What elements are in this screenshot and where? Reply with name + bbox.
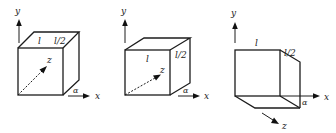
y-axis-label: y xyxy=(230,8,237,18)
cube-2 xyxy=(125,38,190,95)
diagram-canvas: y z l l/2 α x y xyxy=(0,0,336,133)
front-face xyxy=(18,48,63,95)
angle-alpha-label: α xyxy=(302,98,308,107)
length-label: l xyxy=(255,38,258,48)
y-axis-label: y xyxy=(14,6,21,16)
angle-alpha-label: α xyxy=(183,86,189,95)
z-axis-label: z xyxy=(159,65,165,75)
panel-1: y z l l/2 α x xyxy=(14,6,100,101)
y-axis-label: y xyxy=(120,6,127,16)
panel-2: y z l l/2 α x xyxy=(120,6,209,101)
y-axis-arrow-icon xyxy=(122,19,128,43)
x-axis-label: x xyxy=(95,91,100,101)
bottom-right-edge xyxy=(280,96,300,108)
z-axis-label: z xyxy=(281,121,287,131)
cube-3 xyxy=(235,50,300,108)
half-length-label: l/2 xyxy=(54,36,66,46)
z-axis-arrow-icon xyxy=(18,66,47,95)
length-label: l xyxy=(146,54,149,64)
x-axis-arrow-icon xyxy=(68,93,90,99)
z-axis-label: z xyxy=(46,55,52,65)
right-face xyxy=(280,50,300,108)
y-axis-arrow-icon xyxy=(16,19,22,43)
top-face xyxy=(18,32,79,48)
x-axis-label: x xyxy=(204,91,209,101)
x-axis-arrow-icon xyxy=(178,93,200,99)
length-label: l xyxy=(38,36,41,46)
half-length-label: l/2 xyxy=(284,48,296,58)
z-axis-arrow-icon xyxy=(262,113,279,124)
top-face xyxy=(125,38,190,50)
half-length-label: l/2 xyxy=(175,50,187,60)
y-axis-arrow-icon xyxy=(232,22,238,43)
panel-3: y l l/2 α x z xyxy=(230,8,329,131)
z-axis-arrow-icon xyxy=(125,75,161,96)
x-axis-label: x xyxy=(324,92,329,102)
front-face xyxy=(235,50,280,96)
angle-alpha-label: α xyxy=(73,86,79,95)
